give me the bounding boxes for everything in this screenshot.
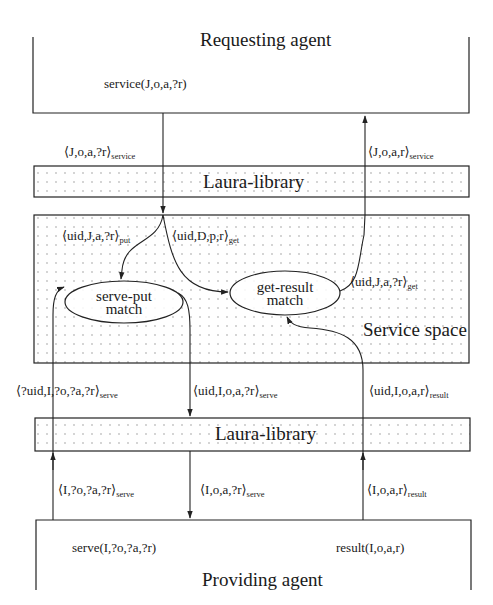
- serve-request-middle-body: ⟨?uid,I,?o,?a,?r⟩: [16, 383, 100, 398]
- serve-put-line2: match: [74, 303, 174, 316]
- serve-request-bottom-body: ⟨I,?o,?a,?r⟩: [58, 482, 116, 497]
- get-request-tuple-body: ⟨uid,D,p,r⟩: [172, 228, 229, 243]
- serve-request-middle-label: ⟨?uid,I,?o,?a,?r⟩serve: [16, 384, 118, 400]
- result-bottom-sub: result: [408, 489, 427, 499]
- get-result-line2: match: [234, 294, 336, 307]
- result-bottom-label: ⟨I,o,a,r⟩result: [367, 483, 427, 499]
- laura-library-top-title: Laura-library: [203, 172, 304, 191]
- put-tuple-body: ⟨uid,J,a,?r⟩: [62, 228, 119, 243]
- get-result-node-label: get-resultmatch: [234, 281, 336, 307]
- put-tuple-label: ⟨uid,J,a,?r⟩put: [62, 229, 130, 245]
- response-message-label: ⟨J,o,a,r⟩service: [368, 145, 434, 161]
- get-request-tuple-label: ⟨uid,D,p,r⟩get: [172, 229, 239, 245]
- get-result-tuple-body: ⟨uid,J,a,?r⟩: [350, 274, 407, 289]
- request-message-body: ⟨J,o,a,?r⟩: [64, 144, 111, 159]
- request-message-label: ⟨J,o,a,?r⟩service: [64, 145, 135, 161]
- response-message-body: ⟨J,o,a,r⟩: [368, 144, 410, 159]
- get-result-tuple-label: ⟨uid,J,a,?r⟩get: [350, 275, 418, 291]
- result-middle-label: ⟨uid,I,o,a,r⟩result: [369, 384, 449, 400]
- get-request-tuple-sub: get: [229, 235, 239, 245]
- serve-response-middle-label: ⟨uid,I,o,a,?r⟩serve: [193, 384, 277, 400]
- serve-request-bottom-sub: serve: [116, 489, 134, 499]
- put-tuple-sub: put: [119, 235, 130, 245]
- requesting-agent-title: Requesting agent: [200, 30, 331, 49]
- serve-request-bottom-label: ⟨I,?o,?a,?r⟩serve: [58, 483, 134, 499]
- result-middle-body: ⟨uid,I,o,a,r⟩: [369, 383, 430, 398]
- providing-agent-title: Providing agent: [202, 570, 323, 589]
- result-middle-sub: result: [430, 390, 449, 400]
- service-call-label: service(J,o,a,?r): [104, 77, 187, 90]
- result-call-label: result(I,o,a,r): [336, 541, 404, 554]
- serve-response-bottom-body: ⟨I,o,a,?r⟩: [200, 482, 247, 497]
- request-message-sub: service: [111, 151, 135, 161]
- serve-call-label: serve(I,?o,?a,?r): [72, 541, 156, 554]
- serve-response-bottom-sub: serve: [247, 489, 265, 499]
- result-bottom-body: ⟨I,o,a,r⟩: [367, 482, 408, 497]
- get-result-tuple-sub: get: [407, 281, 417, 291]
- serve-request-middle-sub: serve: [100, 390, 118, 400]
- serve-response-middle-body: ⟨uid,I,o,a,?r⟩: [193, 383, 259, 398]
- serve-response-middle-sub: serve: [259, 390, 277, 400]
- serve-response-bottom-label: ⟨I,o,a,?r⟩serve: [200, 483, 265, 499]
- service-space-title: Service space: [363, 320, 467, 339]
- laura-library-bottom-title: Laura-library: [215, 424, 316, 443]
- serve-put-node-label: serve-putmatch: [74, 290, 174, 316]
- response-message-sub: service: [410, 151, 434, 161]
